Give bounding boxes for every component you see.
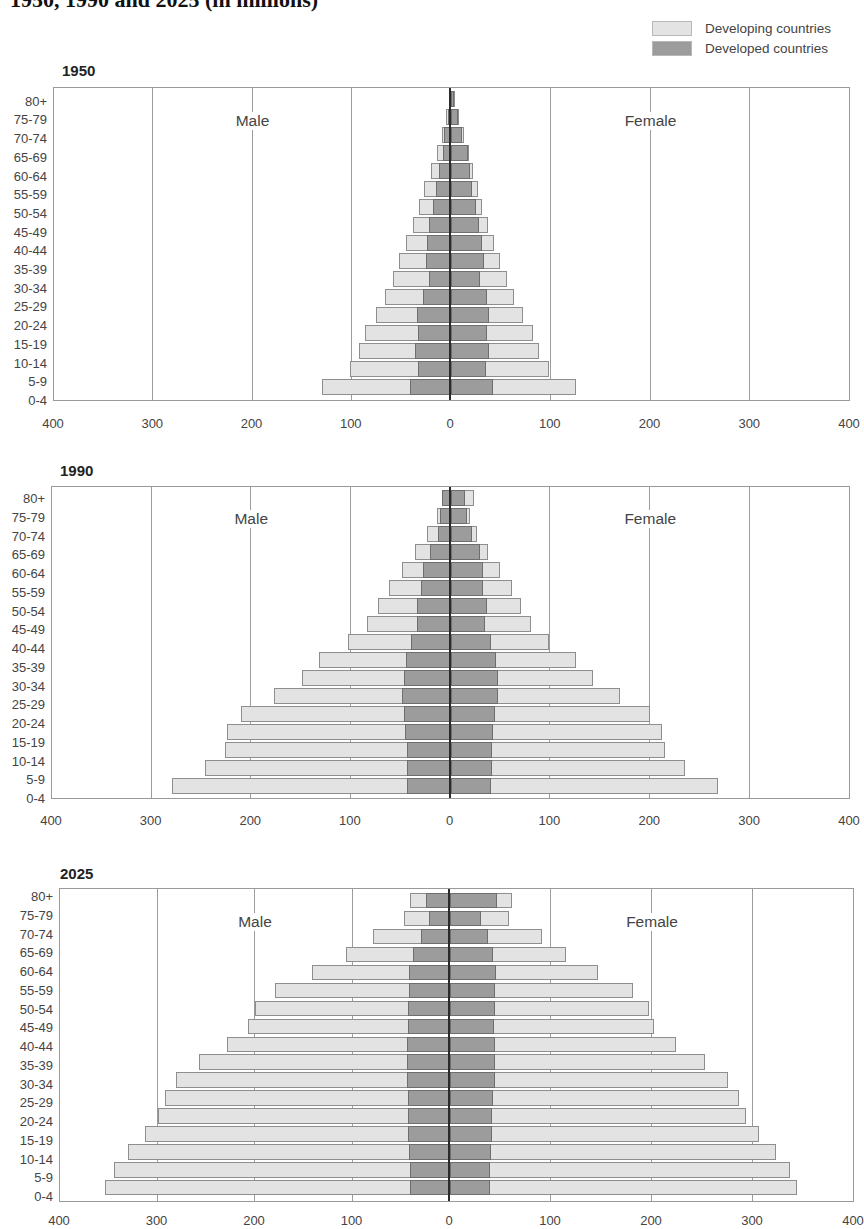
bar-female-developed: [451, 307, 489, 323]
bar-female-developed: [451, 289, 487, 305]
figure-title: 1950, 1990 and 2025 (in millions): [10, 0, 318, 13]
bar-female-developing: [450, 1162, 790, 1177]
bar-male-developed: [429, 271, 451, 287]
bar-female-developed: [450, 1162, 490, 1177]
age-group-label: 55-59: [13, 984, 53, 998]
x-tick-label: 300: [141, 416, 163, 431]
bar-female-developed: [451, 760, 493, 776]
female-label: Female: [623, 112, 679, 130]
age-group-label: 15-19: [7, 338, 47, 352]
bar-male-developed: [407, 778, 451, 794]
age-group-label: 75-79: [5, 511, 45, 525]
bar-female-developed: [451, 163, 470, 179]
bar-male-developed: [418, 325, 451, 341]
age-group-label: 20-24: [7, 319, 47, 333]
age-group-label: 10-14: [5, 755, 45, 769]
bar-female-developing: [450, 1144, 776, 1159]
age-group-label: 60-64: [13, 965, 53, 979]
bar-male-developed: [407, 760, 451, 776]
x-tick-label: 100: [539, 1213, 561, 1228]
age-group-label: 40-44: [13, 1040, 53, 1054]
bar-female-developed: [451, 181, 472, 197]
age-group-label: 30-34: [13, 1078, 53, 1092]
bar-male-developed: [413, 947, 450, 962]
plot-area: MaleFemale: [53, 87, 850, 401]
bar-female-developed: [451, 616, 486, 632]
developed-swatch-icon: [652, 41, 692, 56]
bar-male-developed: [407, 1037, 450, 1052]
age-group-label: 65-69: [13, 946, 53, 960]
age-group-label: 45-49: [5, 623, 45, 637]
bar-female-developed: [451, 670, 499, 686]
x-tick-label: 300: [146, 1213, 168, 1228]
male-label: Male: [234, 112, 272, 130]
age-group-label: 80+: [13, 890, 53, 904]
male-label: Male: [236, 913, 274, 931]
female-label: Female: [624, 913, 680, 931]
age-group-label: 25-29: [7, 300, 47, 314]
age-group-label: 35-39: [5, 661, 45, 675]
x-tick-label: 200: [638, 813, 660, 828]
bar-female-developed: [451, 343, 489, 359]
bar-male-developed: [423, 289, 451, 305]
age-group-label: 0-4: [7, 394, 47, 408]
bar-male-developing: [145, 1126, 450, 1141]
bar-male-developed: [408, 1019, 450, 1034]
x-tick-label: 200: [640, 1213, 662, 1228]
age-group-label: 35-39: [7, 263, 47, 277]
x-tick-label: 400: [42, 416, 64, 431]
x-tick-label: 400: [40, 813, 62, 828]
age-group-label: 60-64: [5, 567, 45, 581]
bar-male-developing: [105, 1180, 450, 1195]
bar-male-developed: [429, 217, 451, 233]
chart-year-label: 2025: [60, 865, 93, 882]
age-group-label: 5-9: [5, 773, 45, 787]
age-group-label: 70-74: [13, 928, 53, 942]
grid-line: [550, 88, 551, 400]
zero-axis-line: [449, 88, 451, 400]
age-group-label: 65-69: [5, 548, 45, 562]
age-group-label: 20-24: [5, 717, 45, 731]
bar-male-developed: [426, 893, 450, 908]
bar-female-developed: [451, 235, 482, 251]
bar-male-developed: [411, 634, 451, 650]
zero-axis-line: [448, 889, 450, 1201]
bar-male-developed: [421, 580, 451, 596]
age-group-label: 30-34: [7, 282, 47, 296]
grid-line: [151, 487, 152, 798]
bar-female-developed: [451, 742, 493, 758]
bar-male-developed: [408, 1108, 450, 1123]
grid-line: [650, 88, 651, 400]
bar-female-developed: [451, 544, 481, 560]
bar-female-developed: [451, 253, 484, 269]
bar-female-developed: [451, 598, 488, 614]
bar-male-developed: [417, 307, 451, 323]
x-tick-label: 200: [639, 416, 661, 431]
age-group-label: 25-29: [13, 1096, 53, 1110]
age-group-label: 30-34: [5, 680, 45, 694]
x-tick-label: 100: [539, 416, 561, 431]
bar-male-developed: [407, 742, 451, 758]
bar-female-developed: [451, 634, 492, 650]
age-group-label: 60-64: [7, 170, 47, 184]
age-group-label: 35-39: [13, 1059, 53, 1073]
bar-male-developed: [408, 1090, 450, 1105]
x-tick-label: 0: [446, 416, 453, 431]
bar-female-developed: [450, 1090, 493, 1105]
plot-area: MaleFemale: [59, 888, 854, 1202]
plot-area: MaleFemale: [51, 486, 850, 799]
x-tick-label: 200: [241, 416, 263, 431]
age-group-label: 75-79: [7, 113, 47, 127]
age-group-label: 45-49: [13, 1021, 53, 1035]
bar-male-developed: [429, 911, 450, 926]
x-tick-label: 200: [239, 813, 261, 828]
x-tick-label: 400: [838, 813, 860, 828]
x-tick-label: 0: [446, 813, 453, 828]
legend-label-developed: Developed countries: [705, 40, 828, 57]
age-group-label: 45-49: [7, 226, 47, 240]
x-tick-label: 400: [842, 1213, 864, 1228]
x-tick-label: 300: [738, 416, 760, 431]
bar-female-developed: [451, 379, 493, 395]
bar-male-developed: [418, 361, 451, 377]
bar-male-developed: [430, 544, 451, 560]
